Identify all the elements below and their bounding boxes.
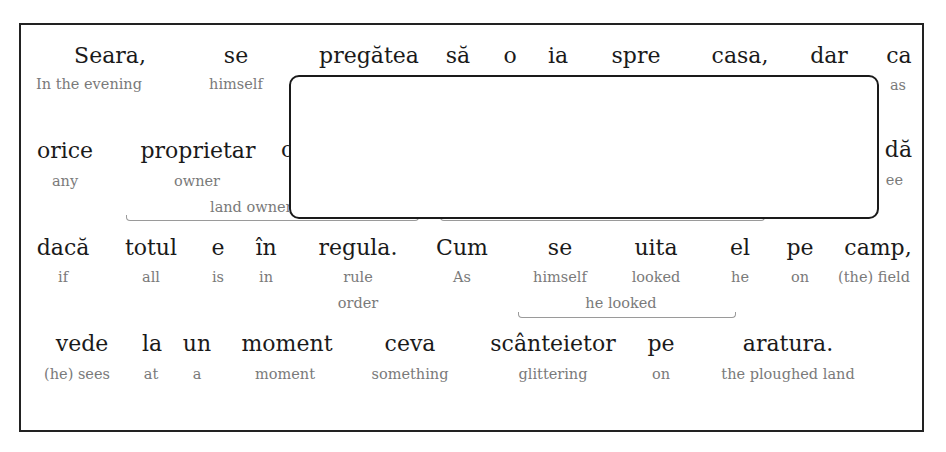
gloss-totul: all [142,270,160,285]
word-casa: casa, [712,45,769,67]
gloss-uita: looked [632,270,681,285]
word-un: un [183,333,211,355]
phrase-gloss-he-looked: he looked [585,296,656,311]
word-da-clipped: dă [885,139,912,161]
gloss-vede: (he) sees [44,367,110,382]
word-o: o [503,45,516,67]
word-o-clipped: o [281,139,289,161]
word-partial-da: dă ee [879,139,919,199]
gloss-in: in [259,270,273,285]
word-e: e [211,237,224,259]
word-ia: ia [548,45,568,67]
gloss-scanteietor: glittering [519,367,588,382]
gloss-la: at [144,367,158,382]
word-daca: dacă [37,237,90,259]
phrase-bracket-he-looked [518,312,736,318]
gloss-pe-2: on [652,367,670,382]
word-pe: pe [786,237,813,259]
gloss-aratura: the ploughed land [721,367,854,382]
word-vede: vede [56,333,109,355]
gloss-orice: any [52,174,78,189]
word-se-2: se [548,237,572,259]
gloss-camp: (the) field [838,270,910,285]
gloss-e: is [212,270,224,285]
word-pregatea: pregătea [319,45,419,67]
word-camp: camp, [844,237,911,259]
word-orice: orice [37,140,93,162]
word-partial-o: o [281,139,289,165]
word-ca: ca [886,45,911,67]
word-sa: să [446,45,470,67]
word-el: el [730,237,750,259]
gloss-daca: if [58,270,68,285]
word-seara: Seara, [74,45,146,67]
gloss-regula: rule [343,270,373,285]
gloss-pe: on [791,270,809,285]
word-in: în [255,237,276,259]
word-pe-2: pe [647,333,674,355]
phrase-gloss-text: land owner [210,200,289,215]
gloss-regula-alt: order [338,296,378,311]
word-aratura: aratura. [743,333,833,355]
word-scanteietor: scânteietor [490,333,615,355]
gloss-ee-clipped: ee [886,173,903,188]
gloss-ca: as [890,78,906,93]
gloss-seara: In the evening [36,77,142,92]
word-cum: Cum [436,237,488,259]
gloss-el: he [731,270,749,285]
word-spre: spre [612,45,661,67]
word-dar: dar [810,45,848,67]
blank-overlay-popup[interactable] [289,75,879,219]
word-uita: uita [634,237,677,259]
gloss-proprietar: owner [174,174,220,189]
word-totul: totul [125,237,177,259]
word-proprietar: proprietar [141,140,256,162]
gloss-un: a [193,367,202,382]
word-ceva: ceva [385,333,436,355]
gloss-ceva: something [372,367,449,382]
gloss-se: himself [209,77,263,92]
gloss-cum: As [453,270,471,285]
word-moment: moment [242,333,333,355]
word-se: se [224,45,248,67]
word-la: la [142,333,162,355]
gloss-moment: moment [255,367,315,382]
word-regula: regula. [319,237,398,259]
gloss-se-2: himself [533,270,587,285]
